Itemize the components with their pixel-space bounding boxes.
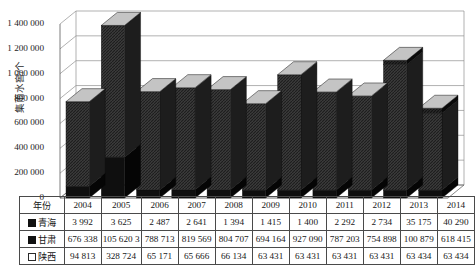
series-legend-3: 陕西 [20, 248, 65, 265]
table-cell: 3 992 [64, 214, 101, 231]
table-cell: 804 707 [215, 231, 252, 248]
table-cell: 63 431 [289, 248, 326, 265]
table-cell: 2 487 [141, 214, 178, 231]
table-cell: 40 290 [437, 214, 474, 231]
table-cell: 65 171 [141, 248, 178, 265]
table-cell: 63 431 [326, 248, 363, 265]
table-column-header: 2009 [252, 197, 289, 214]
series-legend-1: 青海 [20, 214, 65, 231]
series-label: 青海 [38, 218, 56, 228]
table-row: 陕西94 813328 72465 17165 66666 13463 4316… [20, 248, 475, 265]
column-2009 [242, 91, 281, 198]
table-row: 甘肃676 338105 620 3788 713819 569804 7076… [20, 231, 475, 248]
table-column-header: 2007 [178, 197, 215, 214]
table-cell: 788 713 [141, 231, 178, 248]
series-label: 甘肃 [38, 235, 56, 245]
table-cell: 105 620 3 [101, 231, 141, 248]
column-2012 [348, 83, 387, 198]
table-cell: 3 625 [101, 214, 141, 231]
table-cell: 2 292 [326, 214, 363, 231]
table-cell: 63 434 [400, 248, 437, 265]
column-2011 [313, 79, 352, 198]
table-column-header: 2006 [141, 197, 178, 214]
table-cell: 676 338 [64, 231, 101, 248]
table-cell: 2 734 [363, 214, 400, 231]
plot-area: 0200 000400 000600 000800 0001 000 0001 … [16, 2, 475, 214]
table-cell: 2 641 [178, 214, 215, 231]
y-axis-tick-label: 800 000 [2, 93, 44, 103]
data-table: 年份20042005200620072008200920102011201220… [19, 196, 475, 265]
table-column-header: 2008 [215, 197, 252, 214]
table-cell: 63 431 [363, 248, 400, 265]
table-cell: 63 431 [252, 248, 289, 265]
table-column-header: 2010 [289, 197, 326, 214]
table-header-row: 年份20042005200620072008200920102011201220… [20, 197, 475, 214]
table-cell: 819 569 [178, 231, 215, 248]
column-2007 [172, 75, 211, 198]
table-cell: 94 813 [64, 248, 101, 265]
table-cell: 66 134 [215, 248, 252, 265]
y-axis-tick-label: 600 000 [2, 117, 44, 127]
y-axis-tick-label: 1 400 000 [2, 18, 44, 28]
table-column-header: 2005 [101, 197, 141, 214]
series-legend-2: 甘肃 [20, 231, 65, 248]
column-2004 [66, 89, 105, 198]
legend-swatch-icon [28, 253, 36, 261]
column-2010 [278, 62, 317, 198]
y-axis-tick-label: 1 000 000 [2, 68, 44, 78]
table-column-header: 2004 [64, 197, 101, 214]
legend-swatch-icon [28, 236, 36, 244]
table-cell: 694 164 [252, 231, 289, 248]
y-axis-tick-label: 400 000 [2, 142, 44, 152]
y-axis-tick-label: 1 200 000 [2, 43, 44, 53]
series-label: 陕西 [38, 252, 56, 262]
table-row: 青海3 9923 6252 4872 6411 3941 4151 4002 2… [20, 214, 475, 231]
table-cell: 100 879 [400, 231, 437, 248]
y-axis-tick-label: 200 000 [2, 167, 44, 177]
column-2006 [137, 79, 176, 198]
table-cell: 328 724 [101, 248, 141, 265]
chart-canvas [16, 2, 475, 214]
table-cell: 65 666 [178, 248, 215, 265]
legend-swatch-icon [28, 219, 36, 227]
table-cell: 35 175 [400, 214, 437, 231]
column-2005 [101, 12, 140, 198]
column-2008 [207, 77, 246, 198]
column-2014 [419, 95, 458, 198]
table-column-header: 2014 [437, 197, 474, 214]
table-cell: 63 434 [437, 248, 474, 265]
table-column-header: 2012 [363, 197, 400, 214]
table-cell: 1 400 [289, 214, 326, 231]
table-column-header: 2011 [326, 197, 363, 214]
table-cell: 787 203 [326, 231, 363, 248]
table-cell: 1 394 [215, 214, 252, 231]
chart-figure: 集雨水窖/个 0200 000400 000600 000800 0001 00… [0, 0, 475, 276]
table-cell: 618 415 [437, 231, 474, 248]
table-cell: 927 090 [289, 231, 326, 248]
table-cell: 1 415 [252, 214, 289, 231]
column-2013 [383, 47, 422, 198]
table-cell: 754 898 [363, 231, 400, 248]
table-corner-label: 年份 [20, 197, 65, 214]
table-column-header: 2013 [400, 197, 437, 214]
